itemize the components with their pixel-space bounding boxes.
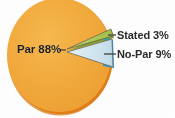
pie-label-stated: Stated 3% bbox=[117, 30, 169, 41]
pie-label-par: Par 88% bbox=[17, 44, 61, 56]
pie-chart: Par 88% Stated 3% No-Par 9% bbox=[0, 0, 175, 118]
pie-label-no-par: No-Par 9% bbox=[117, 49, 171, 60]
